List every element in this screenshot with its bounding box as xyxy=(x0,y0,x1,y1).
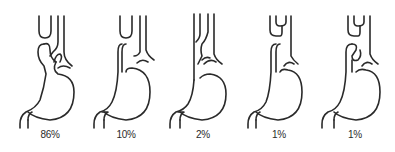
variant-1-drawing xyxy=(20,16,74,128)
variant-4-drawing xyxy=(248,16,302,128)
variant-3-percentage: 2% xyxy=(196,129,210,140)
variant-4-percentage: 1% xyxy=(272,129,286,140)
variant-5-percentage: 1% xyxy=(348,129,362,140)
variant-1-percentage: 86% xyxy=(40,129,59,140)
anatomy-diagram: 86% 10% 2% 1% 1% xyxy=(0,0,395,152)
variant-2-drawing xyxy=(94,16,154,128)
variant-2-percentage: 10% xyxy=(116,129,135,140)
variant-5-drawing xyxy=(322,16,380,128)
variant-3-drawing xyxy=(170,14,226,128)
